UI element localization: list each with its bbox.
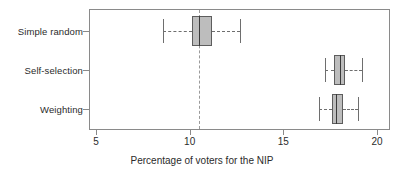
y-category-label-0: Simple random [18, 26, 83, 37]
x-axis-tick-2 [283, 130, 284, 135]
y-category-label-2: Weighting [40, 104, 83, 115]
whisker-high-cap [362, 58, 363, 82]
median-line [199, 16, 200, 46]
boxplot-figure: Simple random Self-selection Weighting 5… [0, 0, 404, 180]
whisker-low-line [163, 31, 191, 32]
x-axis-tick-3 [377, 130, 378, 135]
whisker-low-cap [325, 58, 326, 82]
whisker-high-line [343, 109, 358, 110]
x-axis-tick-label-3: 20 [371, 136, 382, 147]
x-axis-tick-label-1: 10 [184, 136, 195, 147]
y-category-label-1: Self-selection [25, 65, 83, 76]
y-axis-labels: Simple random Self-selection Weighting [0, 0, 83, 180]
median-line [340, 55, 341, 85]
whisker-low-line [325, 70, 334, 71]
whisker-high-cap [358, 97, 359, 121]
box-iqr [332, 94, 343, 124]
y-axis-tick-1 [83, 70, 89, 71]
whisker-low-cap [319, 97, 320, 121]
whisker-high-line [212, 31, 240, 32]
whisker-low-cap [163, 19, 164, 43]
box-iqr [192, 16, 213, 46]
x-axis-tick-label-0: 5 [93, 136, 99, 147]
whisker-high-cap [240, 19, 241, 43]
x-axis-tick-label-2: 15 [278, 136, 289, 147]
whisker-low-line [319, 109, 332, 110]
x-axis-title: Percentage of voters for the NIP [0, 155, 404, 166]
y-axis-tick-0 [83, 31, 89, 32]
median-line [336, 94, 337, 124]
x-axis-tick-0 [96, 130, 97, 135]
x-axis-tick-1 [190, 130, 191, 135]
y-axis-tick-2 [83, 109, 89, 110]
whisker-high-line [345, 70, 362, 71]
